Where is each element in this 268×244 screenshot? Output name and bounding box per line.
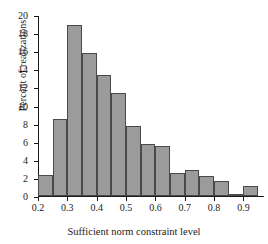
- x-axis-line: [38, 196, 264, 197]
- x-tick: [243, 197, 244, 201]
- histogram-bar: [141, 144, 156, 196]
- histogram-bar: [126, 126, 141, 196]
- x-tick: [185, 197, 186, 201]
- y-tick-label: 14: [18, 64, 28, 75]
- histogram-bar: [53, 119, 68, 196]
- x-tick-label: 0.2: [32, 202, 45, 213]
- y-tick-label: 4: [23, 155, 28, 166]
- x-tick-label: 0.4: [90, 202, 103, 213]
- histogram-bar: [170, 173, 185, 196]
- y-tick-label: 20: [18, 10, 28, 21]
- y-tick-label: 0: [23, 191, 28, 202]
- x-tick-label: 0.8: [208, 202, 221, 213]
- x-tick: [126, 197, 127, 201]
- histogram-bar: [214, 181, 229, 196]
- y-tick-label: 8: [23, 119, 28, 130]
- plot-area: 02468101214161820 0.20.30.40.50.60.70.80…: [38, 16, 264, 197]
- y-tick: 20: [34, 16, 38, 17]
- x-tick: [155, 197, 156, 201]
- histogram-bar: [243, 186, 258, 196]
- histogram-figure: Percent of realizations 0246810121416182…: [0, 0, 268, 244]
- y-axis-line: [38, 16, 39, 197]
- x-tick: [67, 197, 68, 201]
- x-tick: [38, 197, 39, 201]
- histogram-bar: [185, 170, 200, 196]
- x-tick-label: 0.7: [179, 202, 192, 213]
- histogram-bar: [97, 75, 112, 196]
- y-tick-label: 6: [23, 137, 28, 148]
- y-tick-label: 12: [18, 82, 28, 93]
- y-tick: 4: [34, 161, 38, 162]
- histogram-bar: [199, 176, 214, 196]
- histogram-bar: [229, 194, 244, 196]
- y-tick: 18: [34, 34, 38, 35]
- histogram-bar: [155, 146, 170, 196]
- x-tick-label: 0.3: [61, 202, 74, 213]
- y-tick: 6: [34, 143, 38, 144]
- y-tick-label: 16: [18, 46, 28, 57]
- y-tick-label: 2: [23, 173, 28, 184]
- y-tick: 10: [34, 107, 38, 108]
- y-tick: 8: [34, 125, 38, 126]
- y-tick-label: 10: [18, 101, 28, 112]
- histogram-bar: [82, 53, 97, 196]
- y-tick: 16: [34, 52, 38, 53]
- y-tick: 12: [34, 88, 38, 89]
- histogram-bar: [111, 93, 126, 196]
- x-axis-title: Sufficient norm constraint level: [0, 226, 268, 237]
- x-tick-label: 0.5: [120, 202, 133, 213]
- y-tick: 14: [34, 70, 38, 71]
- x-tick: [97, 197, 98, 201]
- y-tick-label: 18: [18, 28, 28, 39]
- x-tick: [214, 197, 215, 201]
- histogram-bar: [67, 25, 82, 196]
- x-tick-label: 0.6: [149, 202, 162, 213]
- x-tick-label: 0.9: [237, 202, 250, 213]
- histogram-bar: [38, 175, 53, 196]
